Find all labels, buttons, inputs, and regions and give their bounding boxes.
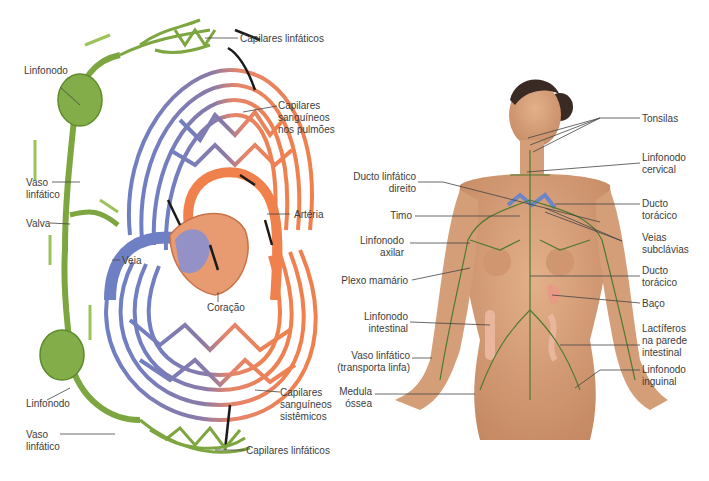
label-tonsilas: Tonsilas xyxy=(642,113,678,125)
lymphatic-system-figure: Capilares linfáticos Linfonodo Capilares… xyxy=(0,0,709,481)
label-plexo-mamario: Plexo mamário xyxy=(334,275,408,287)
label-linfonodo-axilar: Linfonodo axilar xyxy=(334,235,404,259)
lymph-capillaries-bottom xyxy=(140,420,250,452)
label-capilares-sanguineos-pulmoes: Capilares sanguíneos nos pulmões xyxy=(278,100,335,136)
lymph-capillaries-top xyxy=(120,20,215,55)
label-capilares-linfaticos-top: Capilares linfáticos xyxy=(240,33,324,45)
label-valva: Valva xyxy=(26,218,50,230)
label-capilares-linfaticos-bottom: Capilares linfáticos xyxy=(246,445,330,457)
label-vaso-linfatico-top: Vaso linfático xyxy=(26,177,60,201)
lymph-node-top xyxy=(58,74,102,126)
label-timo: Timo xyxy=(334,210,412,222)
label-coracao: Coração xyxy=(207,302,245,314)
label-linfonodo-intestinal: Linfonodo intestinal xyxy=(334,311,408,335)
label-veia: Veia xyxy=(122,255,141,267)
label-vaso-linfatico-bottom: Vaso linfático xyxy=(26,429,60,453)
label-baco: Baço xyxy=(642,298,665,310)
heart-shape xyxy=(170,214,248,295)
label-capilares-sanguineos-sistemicos: Capilares sanguíneos sistêmicos xyxy=(280,387,332,423)
label-ducto-toracico-2: Ducto torácico xyxy=(642,265,677,289)
lymph-branch xyxy=(70,212,118,225)
label-veias-subclavias: Veias subclávias xyxy=(642,232,689,256)
body-figure xyxy=(395,79,668,440)
label-linfonodo-cervical: Linfonodo cervical xyxy=(642,152,686,176)
label-vaso-linfatico-transporta-linfa: Vaso linfático (transporta linfa) xyxy=(328,350,410,374)
label-linfonodo-bottom: Linfonodo xyxy=(26,398,70,410)
label-linfonodo-inguinal: Linfonodo inguinal xyxy=(642,364,686,388)
lymph-node-bottom xyxy=(40,330,84,380)
label-medula-ossea: Medula óssea xyxy=(334,386,372,410)
label-ducto-toracico-1: Ducto torácico xyxy=(642,198,677,222)
label-linfonodo-top: Linfonodo xyxy=(24,65,68,77)
label-lactiferos: Lactíferos na parede intestinal xyxy=(642,323,687,359)
label-arteria: Artéria xyxy=(294,209,323,221)
label-ducto-linfatico-direito: Ducto linfático direito xyxy=(334,171,416,195)
